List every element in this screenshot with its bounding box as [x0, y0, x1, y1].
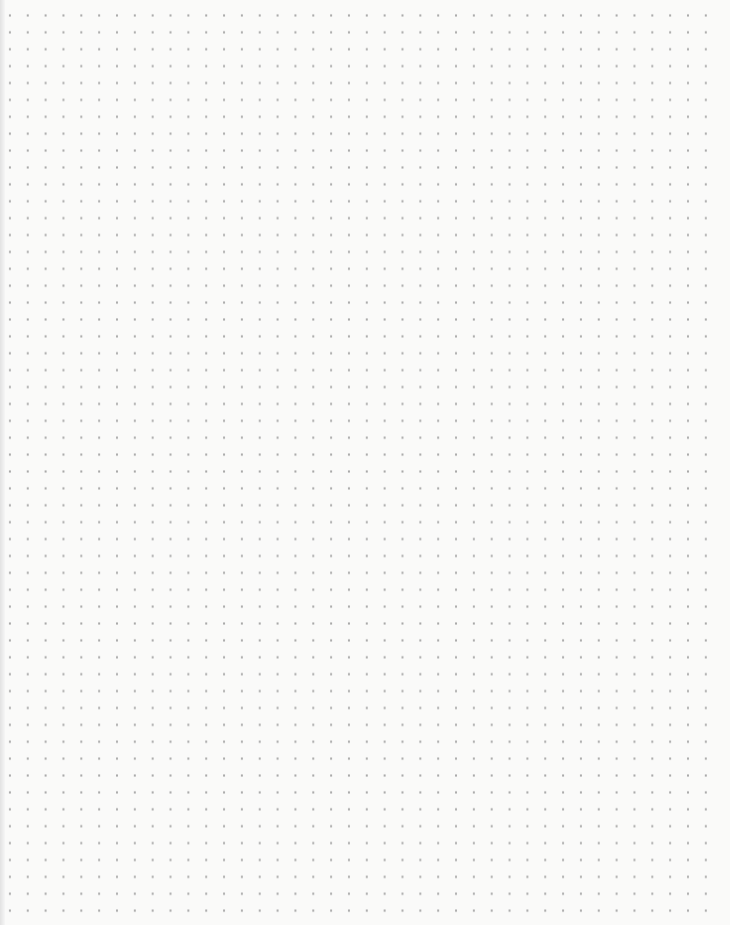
dot-grid-pattern [1, 7, 715, 920]
dot-grid-paper [0, 0, 730, 925]
